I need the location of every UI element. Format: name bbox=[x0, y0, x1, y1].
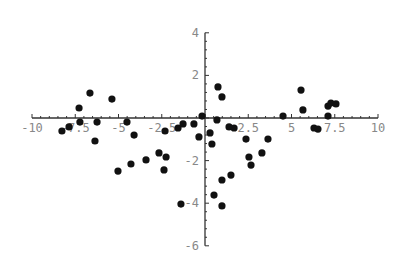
axes bbox=[32, 33, 378, 246]
data-point bbox=[227, 171, 234, 178]
data-point bbox=[75, 104, 82, 111]
y-tick-label: -4 bbox=[185, 196, 199, 210]
data-point bbox=[198, 112, 205, 119]
data-point bbox=[177, 200, 184, 207]
data-point bbox=[218, 93, 225, 100]
data-point bbox=[206, 129, 213, 136]
data-point bbox=[332, 100, 339, 107]
data-point bbox=[218, 176, 225, 183]
data-point bbox=[247, 161, 254, 168]
y-tick-label: 2 bbox=[192, 68, 199, 82]
data-point bbox=[161, 127, 168, 134]
y-tick-label: -2 bbox=[185, 154, 199, 168]
data-point bbox=[123, 118, 130, 125]
data-point bbox=[91, 137, 98, 144]
data-point bbox=[58, 127, 65, 134]
data-point bbox=[179, 120, 186, 127]
data-point bbox=[297, 86, 304, 93]
data-point bbox=[213, 116, 220, 123]
data-points bbox=[58, 83, 339, 209]
data-point bbox=[195, 133, 202, 140]
data-point bbox=[258, 149, 265, 156]
x-tick-label: 5 bbox=[288, 121, 295, 135]
x-tick-label: -10 bbox=[21, 121, 43, 135]
data-point bbox=[65, 123, 72, 130]
data-point bbox=[86, 89, 93, 96]
data-point bbox=[76, 118, 83, 125]
y-tick-label: -6 bbox=[185, 239, 199, 253]
data-point bbox=[314, 125, 321, 132]
data-point bbox=[264, 135, 271, 142]
data-point bbox=[93, 118, 100, 125]
data-point bbox=[162, 153, 169, 160]
x-tick-label: 10 bbox=[371, 121, 385, 135]
tick-labels: -10-7.5-5-2.52.557.51042-2-4-6 bbox=[21, 26, 385, 253]
data-point bbox=[218, 202, 225, 209]
x-tick-label: -7.5 bbox=[61, 121, 90, 135]
scatter-plot: -10-7.5-5-2.52.557.51042-2-4-6 bbox=[0, 0, 414, 272]
x-tick-label: -2.5 bbox=[147, 121, 176, 135]
data-point bbox=[114, 167, 121, 174]
data-point bbox=[245, 153, 252, 160]
data-point bbox=[230, 124, 237, 131]
data-point bbox=[130, 131, 137, 138]
data-point bbox=[208, 140, 215, 147]
data-point bbox=[214, 83, 221, 90]
data-point bbox=[210, 192, 217, 199]
data-point bbox=[299, 106, 306, 113]
data-point bbox=[190, 120, 197, 127]
y-tick-label: 4 bbox=[192, 26, 199, 40]
data-point bbox=[108, 95, 115, 102]
data-point bbox=[160, 166, 167, 173]
data-point bbox=[242, 135, 249, 142]
x-tick-label: 2.5 bbox=[237, 121, 259, 135]
data-point bbox=[142, 156, 149, 163]
data-point bbox=[279, 112, 286, 119]
data-point bbox=[324, 112, 331, 119]
x-tick-label: 7.5 bbox=[324, 121, 346, 135]
data-point bbox=[127, 160, 134, 167]
data-point bbox=[155, 149, 162, 156]
